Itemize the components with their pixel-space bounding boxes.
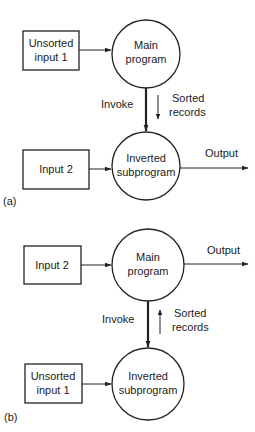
circle-label: program bbox=[126, 53, 167, 65]
box-label: Unsorted bbox=[31, 370, 76, 382]
program-inversion-diagram: Unsorted input 1 Main program Invoke Sor… bbox=[0, 0, 255, 432]
panel-tag: (a) bbox=[3, 195, 16, 207]
box-label: input 1 bbox=[36, 384, 69, 396]
invoke-label: Invoke bbox=[102, 313, 134, 325]
invoke-label: Invoke bbox=[101, 98, 133, 110]
sorted-records-label: records bbox=[169, 106, 206, 118]
box-label: Input 2 bbox=[35, 259, 69, 271]
sorted-records-label: Sorted bbox=[172, 92, 204, 104]
panel-a: Unsorted input 1 Main program Invoke Sor… bbox=[3, 20, 248, 207]
circle-label: Main bbox=[136, 251, 160, 263]
circle-label: subprogram bbox=[119, 384, 178, 396]
box-label: Input 2 bbox=[39, 163, 73, 175]
circle-label: Main bbox=[134, 39, 158, 51]
panel-tag: (b) bbox=[4, 411, 17, 423]
circle-label: program bbox=[128, 265, 169, 277]
circle-label: subprogram bbox=[117, 166, 176, 178]
panel-b: Input 2 Main program Output Invoke Sorte… bbox=[4, 229, 248, 423]
box-label: Unsorted bbox=[29, 37, 74, 49]
box-label: input 1 bbox=[34, 51, 67, 63]
circle-label: Inverted bbox=[126, 152, 166, 164]
output-label: Output bbox=[207, 244, 240, 256]
output-label: Output bbox=[205, 147, 238, 159]
sorted-records-label: records bbox=[172, 321, 209, 333]
sorted-records-label: Sorted bbox=[174, 307, 206, 319]
circle-label: Inverted bbox=[128, 370, 168, 382]
